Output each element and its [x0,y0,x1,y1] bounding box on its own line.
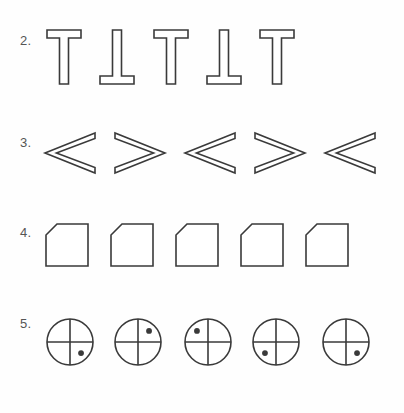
shape-chevron-1 [42,130,98,176]
row-label-2: 2. [20,33,31,48]
shape-chevron-3 [182,130,238,176]
row-label-4: 4. [20,225,31,240]
row-label-5: 5. [20,316,31,331]
shape-chevron-5 [322,130,378,176]
shape-chevron-2 [112,130,168,176]
shape-chamfered-square-1 [44,222,90,268]
worksheet-row-4: 4. [0,205,404,300]
shape-circle-3 [182,316,234,368]
shape-t-4 [205,28,243,86]
worksheet-row-3: 3. [0,110,404,205]
shape-circle-2 [112,316,164,368]
shape-chamfered-square-3 [174,222,220,268]
shape-chamfered-square-2 [109,222,155,268]
shape-chevron-4 [252,130,308,176]
row-label-3: 3. [20,135,31,150]
shape-t-2 [98,28,136,86]
shape-circle-4 [250,316,302,368]
shape-circle-5 [320,316,372,368]
shape-t-3 [152,28,190,86]
shape-chamfered-square-4 [239,222,285,268]
shape-t-5 [258,28,296,86]
worksheet-page: 2. 3. 4. 5. [0,0,404,413]
worksheet-row-2: 2. [0,0,404,110]
shape-circle-1 [44,316,96,368]
shape-t-1 [45,28,83,86]
shape-chamfered-square-5 [304,222,350,268]
worksheet-row-5: 5. [0,300,404,413]
